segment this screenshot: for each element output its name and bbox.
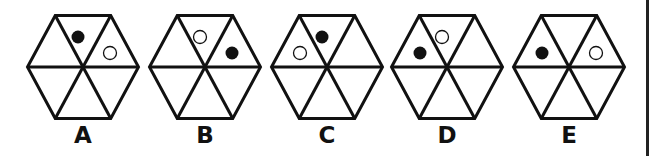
filled-dot-icon xyxy=(226,47,239,60)
empty-dot-icon xyxy=(590,47,603,60)
empty-dot-icon xyxy=(436,31,449,44)
option-label-a: A xyxy=(63,121,103,149)
filled-dot-icon xyxy=(72,31,85,44)
filled-dot-icon xyxy=(316,31,329,44)
hexagon-option-e xyxy=(514,16,625,119)
right-border-line xyxy=(646,0,649,156)
filled-dot-icon xyxy=(536,47,549,60)
option-label-e: E xyxy=(549,121,589,149)
hexagon-option-c xyxy=(272,16,383,119)
option-label-c: C xyxy=(307,121,347,149)
answer-options-figure: A B C D E xyxy=(0,0,651,156)
empty-dot-icon xyxy=(104,47,117,60)
option-label-b: B xyxy=(185,121,225,149)
filled-dot-icon xyxy=(414,47,427,60)
hexagon-option-a xyxy=(28,16,139,119)
option-label-d: D xyxy=(427,121,467,149)
hexagon-option-b xyxy=(150,16,261,119)
empty-dot-icon xyxy=(294,47,307,60)
hexagon-option-d xyxy=(392,16,503,119)
empty-dot-icon xyxy=(194,31,207,44)
